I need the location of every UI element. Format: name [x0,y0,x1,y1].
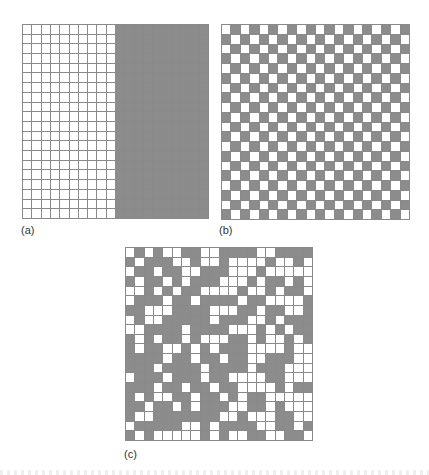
grid-cell [163,277,172,287]
grid-cell [173,422,182,432]
grid-cell [173,393,182,403]
grid-cell [107,190,116,200]
grid-cell [200,161,209,171]
grid-cell [257,277,266,287]
grid-cell [154,277,163,287]
grid-cell [97,103,106,113]
grid-cell [276,402,285,412]
grid-cell [335,74,344,84]
grid-cell [51,200,60,210]
grid-cell [79,83,88,93]
grid-cell [372,201,381,211]
grid-cell [32,132,41,142]
grid-cell [278,45,287,55]
grid-cell [382,181,391,191]
grid-cell [288,84,297,94]
grid-cell [260,152,269,162]
grid-cell [260,25,269,35]
grid-cell [154,412,163,422]
grid-cell [173,287,182,297]
grid-cell [304,422,313,432]
grid-cell [325,74,334,84]
grid-cell [316,152,325,162]
grid-cell [181,190,190,200]
grid-cell [135,344,144,354]
grid-cell [200,200,209,210]
grid-cell [269,162,278,172]
grid-cell [32,64,41,74]
grid-cell [107,54,116,64]
grid-cell [307,181,316,191]
grid-cell [172,25,181,35]
grid-cell [32,25,41,35]
grid-cell [201,277,210,287]
grid-cell [307,201,316,211]
grid-cell [294,267,303,277]
grid-cell [144,64,153,74]
grid-cell [182,354,191,364]
grid-cell [316,84,325,94]
grid-cell [210,258,219,268]
cropped-caption-line [0,470,429,475]
grid-cell [163,364,172,374]
grid-cell [201,373,210,383]
grid-cell [135,393,144,403]
grid-cell [297,210,306,220]
grid-cell [241,45,250,55]
grid-cell [163,248,172,258]
grid-cell [126,277,135,287]
grid-cell [325,191,334,201]
grid-cell [238,383,247,393]
grid-cell [107,112,116,122]
grid-cell [325,54,334,64]
grid-cell [144,190,153,200]
grid-cell [278,123,287,133]
grid-cell [288,132,297,142]
grid-cell [297,35,306,45]
grid-cell [200,190,209,200]
grid-cell [325,142,334,152]
grid-cell [125,73,134,83]
grid-cell [144,122,153,132]
grid-cell [97,180,106,190]
grid-cell [70,170,79,180]
grid-cell [97,122,106,132]
grid-cell [163,325,172,335]
grid-cell [401,54,410,64]
grid-cell [307,93,316,103]
grid-cell [304,393,313,403]
grid-cell [172,54,181,64]
grid-cell [269,74,278,84]
grid-cell [260,74,269,84]
grid-cell [391,152,400,162]
grid-cell [222,181,231,191]
grid-cell [248,344,257,354]
grid-cell [238,422,247,432]
grid-cell [51,64,60,74]
grid-cell [372,93,381,103]
grid-cell [238,325,247,335]
grid-cell [144,151,153,161]
grid-cell [116,44,125,54]
grid-cell [172,103,181,113]
grid-cell [248,354,257,364]
grid-cell [172,151,181,161]
grid-cell [153,73,162,83]
grid-cell [294,402,303,412]
grid-cell [372,152,381,162]
grid-cell [231,181,240,191]
grid-cell [172,170,181,180]
grid-cell [181,209,190,219]
grid-cell [382,191,391,201]
grid-cell [260,64,269,74]
grid-cell [144,103,153,113]
grid-cell [257,344,266,354]
grid-cell [135,122,144,132]
grid-cell [276,325,285,335]
grid-cell [250,103,259,113]
grid-cell [344,25,353,35]
grid-cell [304,306,313,316]
grid-cell [344,123,353,133]
grid-cell [363,54,372,64]
grid-cell [241,103,250,113]
